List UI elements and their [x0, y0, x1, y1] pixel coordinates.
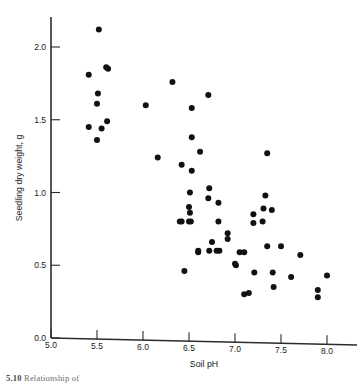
- data-point: [237, 249, 243, 255]
- data-point: [269, 207, 275, 213]
- y-tick-label-2.0: 2.0: [34, 42, 46, 52]
- data-point: [278, 243, 284, 249]
- data-point: [270, 270, 276, 276]
- data-point: [187, 210, 193, 216]
- data-point: [205, 195, 211, 201]
- y-axis-tick-labels: 0.00.51.01.52.0: [34, 42, 46, 343]
- y-tick-label-1.5: 1.5: [34, 115, 46, 125]
- data-point: [246, 290, 252, 296]
- data-point: [250, 211, 256, 217]
- data-point: [271, 284, 277, 290]
- data-point: [232, 261, 238, 267]
- data-point: [86, 72, 92, 78]
- x-tick-label-6.5: 6.5: [183, 343, 195, 353]
- data-point: [143, 102, 149, 108]
- data-point: [179, 162, 185, 168]
- data-point: [205, 92, 211, 98]
- data-point: [187, 190, 193, 196]
- x-tick-label-8.0: 8.0: [321, 346, 333, 356]
- data-point: [264, 243, 270, 249]
- data-point: [260, 219, 266, 225]
- data-point: [189, 168, 195, 174]
- data-point: [288, 274, 294, 280]
- data-point: [169, 79, 175, 85]
- data-point: [215, 219, 221, 225]
- x-axis-tick-labels: 5.05.56.06.57.07.58.0: [45, 340, 333, 356]
- x-tick-label-5.5: 5.5: [91, 341, 103, 351]
- data-point: [94, 101, 100, 107]
- data-point: [214, 248, 220, 254]
- x-tick-label-7.0: 7.0: [229, 344, 241, 354]
- data-point: [197, 149, 203, 155]
- x-tick-label-6.0: 6.0: [137, 342, 149, 352]
- x-axis-title: Soil pH: [190, 359, 218, 369]
- data-point: [297, 252, 303, 258]
- figure-container: 0.00.51.01.52.0 5.05.56.06.57.07.58.0 So…: [0, 0, 363, 384]
- data-point: [250, 220, 256, 226]
- data-point: [95, 91, 101, 97]
- y-axis-title: Seedling dry weight, g: [14, 135, 24, 222]
- data-point: [103, 64, 109, 70]
- data-point: [181, 268, 187, 274]
- x-tick-label-5.0: 5.0: [45, 340, 57, 350]
- caption-number: 5.10: [6, 373, 22, 383]
- data-point: [189, 105, 195, 111]
- data-point: [188, 219, 194, 225]
- data-point: [262, 192, 268, 198]
- y-tick-label-0.5: 0.5: [34, 260, 46, 270]
- data-point: [215, 200, 221, 206]
- data-point: [99, 125, 105, 131]
- data-point: [324, 272, 330, 278]
- figure-caption: 5.10 Relationship of: [6, 373, 358, 384]
- data-point: [177, 219, 183, 225]
- y-tick-label-1.0: 1.0: [34, 188, 46, 198]
- data-point: [206, 185, 212, 191]
- data-point: [104, 118, 110, 124]
- data-point: [315, 287, 321, 293]
- data-point: [251, 270, 257, 276]
- data-point: [264, 150, 270, 156]
- data-point: [189, 134, 195, 140]
- data-point: [155, 155, 161, 161]
- data-point: [206, 248, 212, 254]
- y-axis-ticks: [51, 47, 60, 338]
- data-point: [86, 124, 92, 130]
- data-point: [94, 137, 100, 143]
- x-tick-label-7.5: 7.5: [275, 345, 287, 355]
- data-point: [195, 248, 201, 254]
- data-point: [225, 236, 231, 242]
- caption-text: Relationship of: [24, 373, 79, 383]
- scatter-plot: 0.00.51.01.52.0 5.05.56.06.57.07.58.0 So…: [0, 0, 363, 384]
- data-point: [225, 230, 231, 236]
- data-points-layer: [86, 27, 330, 301]
- data-point: [261, 206, 267, 212]
- data-point: [186, 204, 192, 210]
- data-point: [315, 294, 321, 300]
- data-point: [209, 239, 215, 245]
- data-point: [96, 27, 102, 33]
